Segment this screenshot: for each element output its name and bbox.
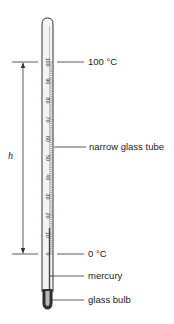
scale-number: 90 (45, 78, 51, 84)
scale-number: 30 (45, 193, 51, 199)
scale-number: 100 (45, 57, 51, 66)
label-0c: 0 °C (88, 249, 107, 259)
thermometer-diagram: 1009080706050403020100 (0, 0, 174, 324)
scale-number: 70 (45, 117, 51, 123)
height-label: h (8, 150, 13, 161)
label-glass-bulb: glass bulb (88, 295, 131, 305)
scale-number: 10 (45, 232, 51, 238)
label-mercury: mercury (88, 271, 122, 281)
scale-number: 50 (45, 155, 51, 161)
label-narrow-glass-tube: narrow glass tube (89, 142, 164, 152)
scale-number: 40 (45, 174, 51, 180)
scale-number: 80 (45, 97, 51, 103)
scale-number: 20 (45, 213, 51, 219)
arrow-up-icon (21, 62, 25, 68)
arrow-down-icon (21, 248, 25, 254)
scale-number: 60 (45, 136, 51, 142)
scale-number: 0 (45, 252, 51, 255)
label-100c: 100 °C (88, 57, 117, 67)
